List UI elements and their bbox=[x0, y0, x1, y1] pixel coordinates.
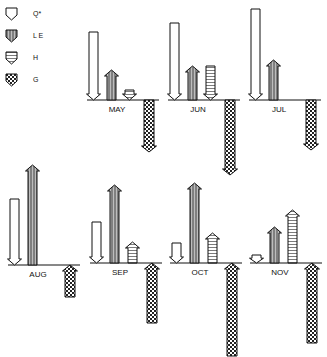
ground-heat-arrow bbox=[63, 265, 78, 297]
latent-heat-arrow bbox=[108, 185, 122, 263]
sensible-heat-arrow bbox=[126, 242, 140, 263]
sensible-heat-arrow bbox=[204, 66, 218, 100]
legend-label: Q* bbox=[33, 10, 41, 18]
q-star-arrow bbox=[249, 9, 263, 100]
ground-heat-arrow bbox=[145, 263, 160, 323]
panel-jun: JUN bbox=[168, 23, 241, 175]
latent-heat-arrow bbox=[186, 66, 200, 100]
panel-oct: OCT bbox=[170, 183, 243, 356]
panel-aug: AUG bbox=[8, 165, 81, 297]
sensible-heat-arrow bbox=[286, 210, 300, 263]
q-star-arrow bbox=[90, 222, 104, 263]
h-swatch-icon bbox=[6, 52, 17, 64]
q-star-arrow bbox=[250, 255, 264, 263]
g-swatch-icon bbox=[6, 74, 17, 86]
panel-nov: NOV bbox=[250, 210, 323, 343]
month-label: MAY bbox=[109, 105, 126, 114]
q-star-arrow bbox=[170, 243, 184, 263]
q-star-arrow bbox=[168, 23, 182, 100]
legend-item-q: Q* bbox=[6, 8, 41, 20]
panel-jul: JUL bbox=[249, 9, 322, 150]
ground-heat-arrow bbox=[223, 100, 238, 175]
legend-item-h: H bbox=[6, 52, 38, 64]
legend: Q*L EHG bbox=[6, 8, 44, 86]
panel-may: MAY bbox=[87, 32, 160, 152]
panel-sep: SEP bbox=[90, 185, 163, 323]
q-star-arrow bbox=[87, 32, 101, 100]
latent-heat-arrow bbox=[267, 60, 281, 100]
legend-item-le: L E bbox=[6, 30, 44, 42]
latent-heat-arrow bbox=[26, 165, 40, 265]
ground-heat-arrow bbox=[225, 263, 240, 356]
latent-heat-arrow bbox=[188, 183, 202, 263]
legend-label: G bbox=[33, 76, 38, 83]
latent-heat-arrow bbox=[105, 70, 119, 100]
ground-heat-arrow bbox=[305, 263, 320, 343]
month-label: AUG bbox=[29, 270, 46, 279]
month-label: OCT bbox=[192, 268, 209, 277]
month-label: JUL bbox=[272, 105, 287, 114]
q-swatch-icon bbox=[6, 8, 17, 20]
legend-label: H bbox=[33, 54, 38, 61]
panels: MAYJUNJULAUGSEPOCTNOV bbox=[8, 9, 323, 356]
month-label: NOV bbox=[271, 268, 289, 277]
legend-item-g: G bbox=[6, 74, 38, 86]
q-star-arrow bbox=[8, 199, 22, 265]
ground-heat-arrow bbox=[142, 100, 157, 152]
legend-label: L E bbox=[33, 32, 44, 39]
latent-heat-arrow bbox=[268, 227, 282, 263]
sensible-heat-arrow bbox=[206, 233, 220, 263]
ground-heat-arrow bbox=[304, 100, 319, 150]
sensible-heat-arrow bbox=[123, 90, 137, 100]
month-label: SEP bbox=[112, 268, 128, 277]
le-swatch-icon bbox=[6, 30, 17, 42]
month-label: JUN bbox=[190, 105, 206, 114]
energy-balance-figure: Q*L EHG MAYJUNJULAUGSEPOCTNOV bbox=[0, 0, 327, 357]
